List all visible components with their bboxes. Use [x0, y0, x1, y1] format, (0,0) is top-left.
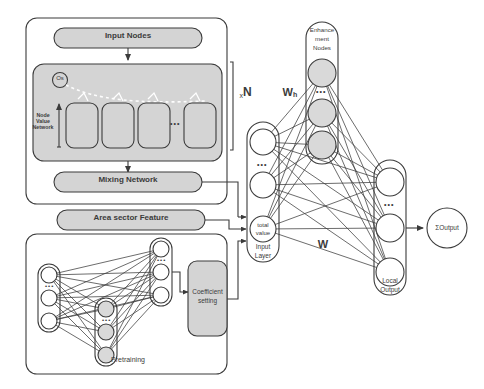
enhancement-nodes: [308, 59, 336, 159]
repeat-bracket: [230, 62, 233, 150]
pretrain-output-nodes: [153, 241, 169, 303]
nvn-cells-ellipsis: •••: [170, 120, 180, 127]
pretrain-input-ellipsis: •••: [45, 283, 54, 289]
pretrain-input-nodes: [41, 267, 57, 329]
local-output-nodes: [376, 168, 404, 286]
diagram-svg: [0, 0, 484, 389]
total-value-node: [250, 216, 276, 242]
input-layer-ellipsis: •••: [257, 161, 267, 168]
nvn-cell-1[interactable]: [66, 103, 98, 148]
route-coefficient-to-input-layer: [227, 241, 246, 299]
input-layer-nodes: [250, 129, 276, 242]
local-output-ellipsis: •••: [384, 201, 394, 208]
os-node: [53, 73, 68, 88]
diagram-canvas: Input Nodes Node Value Network Os ••• Mi…: [0, 0, 484, 389]
route-area-to-input-layer: [205, 220, 246, 229]
pretrain-output-ellipsis: •••: [157, 257, 166, 263]
nvn-cell-4[interactable]: [184, 103, 216, 148]
sum-output-node[interactable]: [427, 208, 467, 248]
input-nodes-box[interactable]: [54, 28, 202, 48]
nvn-cell-3[interactable]: [138, 103, 170, 148]
pretrain-hidden-nodes: [98, 301, 114, 363]
nvn-cell-2[interactable]: [102, 103, 134, 148]
coefficient-setting-box[interactable]: [188, 261, 227, 336]
pretrain-hidden-ellipsis: •••: [102, 317, 111, 323]
enhancement-nodes-ellipsis: •••: [316, 88, 326, 95]
mixing-network-box[interactable]: [54, 172, 202, 192]
area-sector-feature-box[interactable]: [57, 210, 205, 230]
